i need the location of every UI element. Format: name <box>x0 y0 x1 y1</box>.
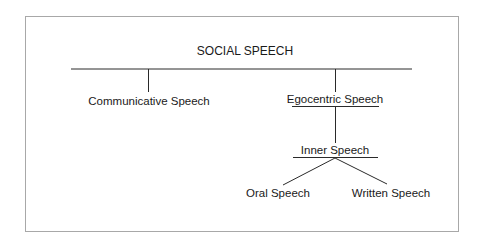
node-social-speech: SOCIAL SPEECH <box>197 45 293 58</box>
node-egocentric-speech: Egocentric Speech <box>287 93 384 106</box>
oral-branch <box>283 158 335 185</box>
written-branch <box>335 158 387 184</box>
node-communicative-speech: Communicative Speech <box>88 95 209 108</box>
node-oral-speech: Oral Speech <box>246 187 310 200</box>
tree-connectors <box>0 0 484 246</box>
node-written-speech: Written Speech <box>352 187 430 200</box>
node-inner-speech: Inner Speech <box>301 144 369 157</box>
